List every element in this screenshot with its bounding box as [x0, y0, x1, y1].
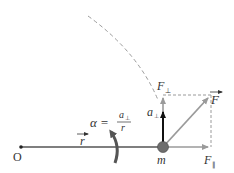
svg-text:r: r: [80, 134, 85, 148]
svg-text:a: a: [119, 109, 124, 120]
diagram-canvas: O r m F ∥ F ⊥ F a ⊥ α = a ⊥ r: [0, 0, 234, 173]
svg-text:F: F: [203, 153, 212, 167]
svg-text:α =: α =: [90, 115, 109, 130]
svg-text:a: a: [147, 105, 153, 119]
force-diagram: O r m F ∥ F ⊥ F a ⊥ α = a ⊥ r: [0, 0, 234, 173]
force-label: F: [210, 92, 222, 107]
mass-label: m: [157, 153, 166, 167]
radius-label: r: [77, 134, 88, 148]
accel-label: a ⊥: [147, 105, 159, 119]
origin-dot: [19, 145, 23, 149]
svg-text:⊥: ⊥: [165, 87, 171, 95]
svg-text:⊥: ⊥: [125, 115, 130, 121]
force-parallel-label: F ∥: [203, 153, 216, 169]
mass-ball: [158, 142, 169, 153]
svg-text:⊥: ⊥: [154, 113, 159, 119]
origin-label: O: [13, 150, 22, 164]
svg-text:r: r: [121, 122, 125, 133]
alpha-formula: α = a ⊥ r: [90, 109, 131, 133]
svg-text:∥: ∥: [212, 161, 216, 169]
svg-text:F: F: [156, 79, 165, 93]
svg-text:F: F: [210, 92, 220, 107]
force-perp-label: F ⊥: [156, 79, 171, 95]
circular-path-dashed: [88, 16, 158, 100]
force-vector: [163, 98, 208, 147]
